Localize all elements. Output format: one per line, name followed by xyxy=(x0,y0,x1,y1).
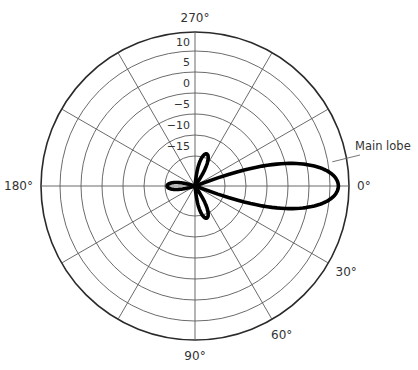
radial-tick-label: −10 xyxy=(167,119,190,132)
polar-chart: 1050−5−10−15 0°30°60°90°180°270° Main lo… xyxy=(0,0,418,370)
main-lobe-label: Main lobe xyxy=(355,139,411,153)
radial-tick-label: −5 xyxy=(174,98,190,111)
angle-label: 270° xyxy=(181,11,210,25)
radial-tick-label: 5 xyxy=(183,56,190,69)
angle-label: 30° xyxy=(336,265,357,279)
angle-label: 90° xyxy=(184,349,205,363)
radial-tick-label: 0 xyxy=(183,77,190,90)
radial-tick-label: −15 xyxy=(167,140,190,153)
radial-tick-label: 10 xyxy=(176,36,190,49)
angle-label: 60° xyxy=(271,328,292,342)
angle-label: 0° xyxy=(357,179,371,193)
angle-label: 180° xyxy=(4,179,33,193)
